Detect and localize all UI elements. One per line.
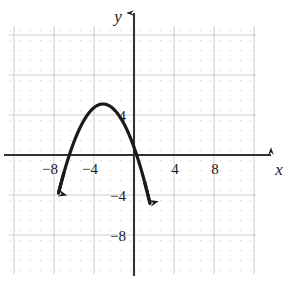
x-axis-label: x	[274, 160, 283, 179]
graph-figure: y x −8 −4 4 8 4 −4 −8	[0, 0, 292, 284]
ytick-label-neg4: −4	[110, 188, 126, 204]
xtick-label-4: 4	[171, 161, 179, 177]
xtick-label-neg8: −8	[42, 161, 58, 177]
ytick-label-neg8: −8	[110, 228, 126, 244]
y-axis-label: y	[112, 7, 122, 26]
coordinate-plane-svg: y x −8 −4 4 8 4 −4 −8	[0, 0, 292, 284]
xtick-label-neg4: −4	[82, 161, 98, 177]
xtick-label-8: 8	[211, 161, 219, 177]
grid-minor	[9, 26, 256, 274]
